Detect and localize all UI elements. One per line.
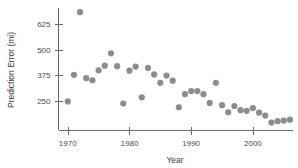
data-point <box>250 105 256 111</box>
data-point <box>219 102 225 108</box>
y-axis-title: Prediction Error (mi) <box>6 32 16 108</box>
data-point <box>231 103 237 109</box>
x-tick-label: 2000 <box>244 139 262 148</box>
data-point <box>268 120 274 126</box>
data-point <box>170 78 176 84</box>
data-point <box>176 104 182 110</box>
data-point <box>200 91 206 97</box>
data-point <box>83 75 89 81</box>
data-point <box>256 110 262 116</box>
data-point <box>102 63 108 69</box>
x-axis-title: Year <box>166 155 183 165</box>
data-point <box>96 67 102 73</box>
x-tick-label: 1970 <box>59 139 77 148</box>
data-point <box>89 77 95 83</box>
data-point <box>120 100 126 106</box>
data-point <box>225 109 231 115</box>
data-point <box>262 112 268 118</box>
x-tick-group: 1970198019902000 <box>59 127 262 148</box>
plot-area: 250375500625 1970198019902000 Prediction… <box>0 0 298 168</box>
data-point <box>71 72 77 78</box>
data-point <box>163 72 169 78</box>
y-tick-label: 375 <box>37 71 51 80</box>
data-point <box>65 98 71 104</box>
x-tick-label: 1980 <box>121 139 139 148</box>
data-point <box>281 117 287 123</box>
data-point <box>145 65 151 71</box>
data-point <box>108 50 114 56</box>
data-point <box>77 9 83 15</box>
y-tick-label: 250 <box>37 97 51 106</box>
data-point <box>207 100 213 106</box>
data-point <box>287 117 293 123</box>
x-tick-label: 1990 <box>182 139 200 148</box>
y-tick-label: 625 <box>37 20 51 29</box>
data-point <box>274 118 280 124</box>
data-point <box>188 88 194 94</box>
data-point <box>139 94 145 100</box>
data-point <box>151 71 157 77</box>
data-point-group <box>65 9 293 126</box>
data-point <box>126 68 132 74</box>
data-point <box>194 88 200 94</box>
data-point <box>157 80 163 86</box>
data-point <box>244 108 250 114</box>
data-point <box>182 91 188 97</box>
data-point <box>133 63 139 69</box>
scatter-chart-figure: 250375500625 1970198019902000 Prediction… <box>0 0 298 168</box>
data-point <box>213 80 219 86</box>
data-point <box>237 107 243 113</box>
data-point <box>114 63 120 69</box>
y-tick-label: 500 <box>37 46 51 55</box>
